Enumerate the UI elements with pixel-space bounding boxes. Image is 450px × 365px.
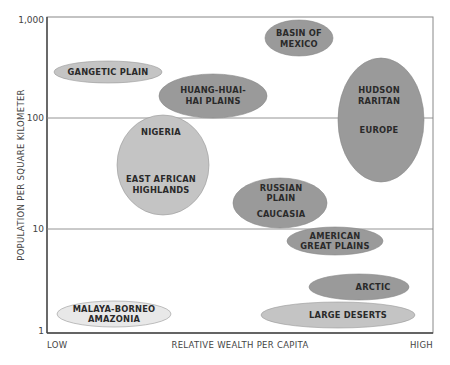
- region-basin-of-mexico: BASIN OF MEXICO: [265, 20, 333, 56]
- svg-text:LARGE DESERTS: LARGE DESERTS: [309, 310, 387, 320]
- svg-text:HUANG-HUAI-: HUANG-HUAI-: [180, 85, 246, 95]
- svg-text:CAUCASIA: CAUCASIA: [257, 209, 306, 219]
- y-tick-1000: 1,000: [18, 15, 44, 25]
- region-hudson-raritan-europe: HUDSON RARITAN EUROPE: [338, 58, 424, 182]
- region-large-deserts: LARGE DESERTS: [261, 302, 415, 328]
- region-malaya-borneo-amazonia: MALAYA-BORNEO AMAZONIA: [57, 301, 171, 327]
- region-american-great-plains: AMERICAN GREAT PLAINS: [287, 227, 383, 255]
- region-arctic: ARCTIC: [309, 274, 409, 300]
- svg-text:HUDSON: HUDSON: [358, 85, 400, 95]
- y-tick-1: 1: [38, 326, 44, 336]
- region-gangetic-plain: GANGETIC PLAIN: [54, 61, 162, 83]
- svg-text:AMAZONIA: AMAZONIA: [88, 314, 141, 324]
- svg-text:AMERICAN: AMERICAN: [310, 231, 361, 241]
- y-tick-10: 10: [33, 224, 45, 234]
- svg-text:GANGETIC PLAIN: GANGETIC PLAIN: [68, 67, 149, 77]
- svg-text:MALAYA-BORNEO: MALAYA-BORNEO: [73, 304, 156, 314]
- y-tick-100: 100: [27, 113, 44, 123]
- chart-canvas: 1,000 100 10 1 POPULATION PER SQUARE KIL…: [0, 0, 450, 365]
- region-russian-plain-caucasia: RUSSIAN PLAIN CAUCASIA: [233, 178, 327, 228]
- svg-text:HAI PLAINS: HAI PLAINS: [185, 96, 240, 106]
- svg-text:EUROPE: EUROPE: [360, 125, 399, 135]
- svg-text:ARCTIC: ARCTIC: [356, 282, 391, 292]
- x-label-low: LOW: [47, 340, 68, 350]
- svg-text:EAST AFRICAN: EAST AFRICAN: [126, 174, 196, 184]
- svg-text:RUSSIAN: RUSSIAN: [260, 183, 303, 193]
- svg-text:NIGERIA: NIGERIA: [141, 127, 181, 137]
- region-nigeria-east-african-highlands: NIGERIA EAST AFRICAN HIGHLANDS: [117, 115, 209, 215]
- svg-text:HIGHLANDS: HIGHLANDS: [132, 185, 189, 195]
- x-label-high: HIGH: [410, 340, 433, 350]
- y-axis-label: POPULATION PER SQUARE KILOMETER: [16, 89, 26, 261]
- svg-text:PLAIN: PLAIN: [267, 193, 296, 203]
- region-huang-huai-hai: HUANG-HUAI- HAI PLAINS: [159, 74, 267, 118]
- svg-text:GREAT PLAINS: GREAT PLAINS: [300, 241, 369, 251]
- svg-text:MEXICO: MEXICO: [280, 39, 318, 49]
- svg-text:BASIN OF: BASIN OF: [276, 28, 322, 38]
- svg-text:RARITAN: RARITAN: [358, 96, 400, 106]
- x-axis-label: RELATIVE WEALTH PER CAPITA: [171, 340, 308, 350]
